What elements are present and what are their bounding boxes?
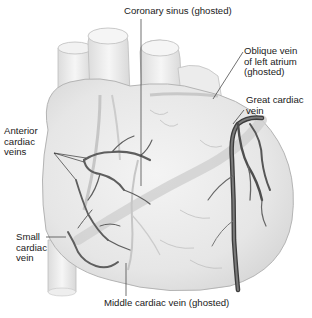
- label-great-cardiac-vein: Great cardiac vein: [246, 95, 304, 116]
- label-oblique-vein: Oblique vein of left atrium (ghosted): [244, 46, 297, 78]
- label-coronary-sinus: Coronary sinus (ghosted): [124, 6, 232, 17]
- label-anterior-cardiac-veins: Anterior cardiac veins: [4, 126, 38, 158]
- label-small-cardiac-vein: Small cardiac vein: [16, 232, 47, 264]
- label-middle-cardiac-vein: Middle cardiac vein (ghosted): [104, 298, 229, 309]
